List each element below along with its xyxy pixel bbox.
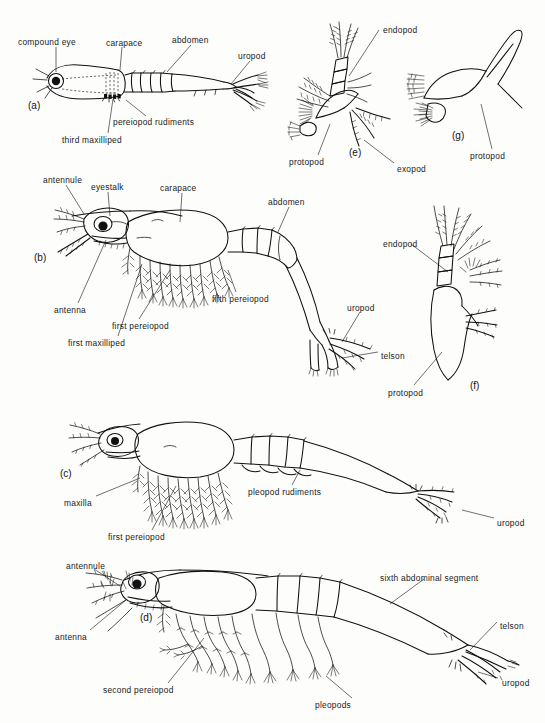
panel-id-e: (e) bbox=[349, 147, 361, 158]
label-uropod-b: uropod bbox=[347, 304, 375, 312]
label-protopod-g: protopod bbox=[470, 152, 505, 160]
label-pereiopod-rudiments: pereiopod rudiments bbox=[113, 118, 194, 126]
label-pleopod-rudiments: pleopod rudiments bbox=[248, 488, 321, 496]
panel-id-b: (b) bbox=[34, 252, 46, 263]
label-first-pereiopod-b: first pereiopod bbox=[112, 322, 169, 330]
label-first-maxilliped: first maxilliped bbox=[68, 339, 125, 347]
figure-artwork: .s { fill:none; stroke:#111; stroke-widt… bbox=[0, 0, 545, 723]
label-third-maxilliped: third maxilliped bbox=[62, 136, 122, 144]
label-carapace-b: carapace bbox=[160, 184, 196, 192]
panel-id-c: (c) bbox=[60, 468, 72, 479]
label-fifth-pereiopod: fifth pereiopod bbox=[212, 295, 269, 303]
label-abdomen-a: abdomen bbox=[172, 36, 209, 44]
panel-c-drawing bbox=[69, 422, 454, 529]
label-pleopods: pleopods bbox=[315, 701, 351, 709]
label-protopod-e: protopod bbox=[289, 158, 324, 166]
label-uropod-a: uropod bbox=[238, 52, 266, 60]
panel-d-drawing bbox=[86, 570, 519, 684]
label-first-pereiopod-c: first pereiopod bbox=[108, 533, 165, 541]
label-endopod-f: endopod bbox=[383, 240, 417, 248]
panel-b-drawing bbox=[54, 208, 372, 376]
label-telson-d: telson bbox=[500, 622, 524, 630]
label-carapace-a: carapace bbox=[106, 39, 142, 47]
panel-g-drawing bbox=[407, 30, 522, 126]
panel-id-g: (g) bbox=[452, 130, 464, 141]
label-sixth-abdominal-segment: sixth abdominal segment bbox=[380, 574, 478, 582]
panel-id-f: (f) bbox=[470, 380, 479, 391]
label-antenna-d: antenna bbox=[55, 633, 87, 641]
label-maxilla: maxilla bbox=[64, 499, 92, 507]
label-uropod-c: uropod bbox=[497, 519, 525, 527]
label-antennule-d: antennule bbox=[66, 562, 105, 570]
label-compound-eye: compound eye bbox=[18, 38, 76, 46]
panel-e-drawing bbox=[288, 22, 390, 146]
panel-f-drawing bbox=[431, 206, 502, 380]
label-antennule-b: antennule bbox=[43, 176, 82, 184]
label-exopod-e: exopod bbox=[397, 165, 426, 173]
label-telson-b: telson bbox=[381, 352, 405, 360]
label-eyestalk: eyestalk bbox=[91, 183, 124, 191]
panel-a-drawing bbox=[33, 65, 268, 111]
label-protopod-f: protopod bbox=[388, 389, 423, 397]
label-second-pereiopod: second pereiopod bbox=[103, 686, 174, 694]
label-abdomen-b: abdomen bbox=[268, 198, 305, 206]
label-endopod-e: endopod bbox=[383, 26, 417, 34]
figure-plate: .s { fill:none; stroke:#111; stroke-widt… bbox=[0, 0, 545, 723]
panel-id-d: (d) bbox=[140, 612, 152, 623]
label-antenna-b: antenna bbox=[54, 306, 86, 314]
panel-id-a: (a) bbox=[28, 100, 40, 111]
label-uropod-d: uropod bbox=[502, 679, 530, 687]
